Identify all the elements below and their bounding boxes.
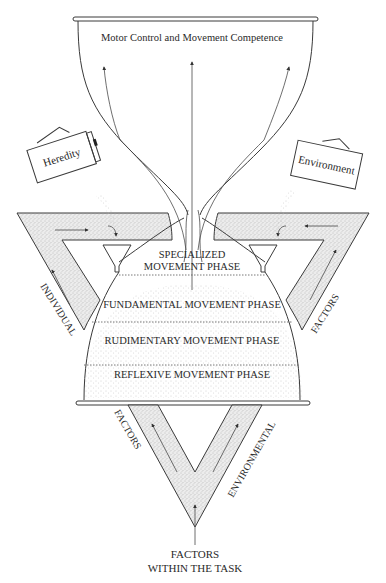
cup-title: Motor Control and Movement Competence xyxy=(101,32,283,43)
phase-fundamental: FUNDAMENTAL MOVEMENT PHASE xyxy=(103,299,281,310)
upper-bulb-right-wall xyxy=(200,21,313,215)
phase-reflexive: REFLEXIVE MOVEMENT PHASE xyxy=(114,369,270,380)
environment-label: Environment xyxy=(297,153,356,177)
heredity-container-lip xyxy=(86,132,100,162)
heredity-label: Heredity xyxy=(41,145,82,168)
phase-rudimentary: RUDIMENTARY MOVEMENT PHASE xyxy=(105,335,280,346)
phase-specialized-line1: SPECIALIZED xyxy=(159,249,226,260)
bottom-label-line2: WITHIN THE TASK xyxy=(148,562,243,574)
heredity-container-handle xyxy=(93,139,98,147)
upper-rim xyxy=(73,17,318,21)
right-funnel xyxy=(249,245,277,272)
hourglass-motor-development-diagram: Motor Control and Movement Competence IN… xyxy=(0,0,386,583)
left-funnel xyxy=(103,245,131,272)
phase-specialized-line2: MOVEMENT PHASE xyxy=(144,261,240,272)
bottom-label-line1: FACTORS xyxy=(171,548,220,560)
lower-bulb: SPECIALIZED MOVEMENT PHASE FUNDAMENTAL M… xyxy=(76,218,310,405)
heredity-container-lid xyxy=(35,125,70,143)
upper-bulb-left-wall xyxy=(78,21,188,215)
lower-rim xyxy=(76,401,310,405)
environment-container-lid xyxy=(322,135,351,149)
task-factors-v: FACTORS ENVIRONMENTAL FACTORS WITHIN THE… xyxy=(112,405,277,574)
